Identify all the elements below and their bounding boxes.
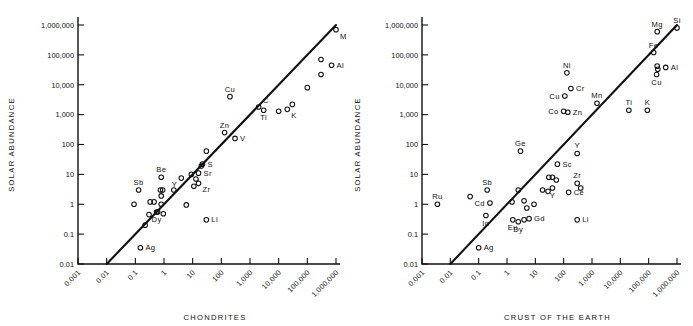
data-point-label: Mg xyxy=(652,20,663,29)
y-tick-label: 10 xyxy=(410,170,418,179)
data-point-marker xyxy=(485,188,490,193)
data-point-label: Co xyxy=(548,107,559,116)
x-tick-label: 100 xyxy=(210,268,226,284)
y-tick-label: 1,000,000 xyxy=(41,21,74,30)
x-tick-label: 10 xyxy=(185,268,197,280)
x-tick-label: 0.1 xyxy=(126,268,140,282)
data-point-marker xyxy=(468,194,473,199)
data-point-label: Ce xyxy=(574,188,585,197)
data-point-marker xyxy=(261,108,266,113)
data-point-marker xyxy=(575,181,580,186)
data-point-marker xyxy=(435,202,440,207)
data-point-marker xyxy=(204,218,209,223)
data-point-marker xyxy=(655,29,660,34)
data-point-marker xyxy=(655,67,660,72)
y-tick-label: 1,000 xyxy=(400,110,419,119)
x-tick-label: 10 xyxy=(527,268,539,280)
y-tick-label: 0.01 xyxy=(404,260,418,269)
data-point-marker xyxy=(159,175,164,180)
data-point-label: Ag xyxy=(484,243,494,252)
data-point-marker xyxy=(334,27,339,32)
y-tick-label: 10,000 xyxy=(51,81,74,90)
axis-frame xyxy=(422,17,681,264)
data-point-marker xyxy=(563,94,568,99)
chart-panel-crust-of-the-earth: 0.010.11101001,00010,000100,0001,000,000… xyxy=(346,0,693,326)
data-point-marker xyxy=(663,65,668,70)
data-point-label: Ge xyxy=(515,139,526,148)
y-tick-label: 10 xyxy=(66,170,74,179)
chart-panel-chondrites: 0.010.11101001,00010,000100,0001,000,000… xyxy=(0,0,346,326)
x-axis-title: CRUST OF THE EARTH xyxy=(504,313,611,322)
data-point-marker xyxy=(595,101,600,106)
x-tick-label: 1 xyxy=(159,268,168,277)
x-tick-label: 1,000,000 xyxy=(310,268,341,299)
x-tick-label: 1,000,000 xyxy=(651,268,682,299)
data-point-label: In xyxy=(482,219,489,228)
data-point-marker xyxy=(290,102,295,107)
data-point-label: Li xyxy=(211,215,218,224)
data-point-label: Li xyxy=(582,215,589,224)
data-point-marker xyxy=(518,149,523,154)
y-tick-label: 1,000,000 xyxy=(385,21,418,30)
data-point-marker xyxy=(522,218,527,223)
data-point-marker xyxy=(319,72,324,77)
data-point-label: S xyxy=(207,160,212,169)
data-point-label: Zn xyxy=(220,121,230,130)
data-point-label: V xyxy=(240,134,246,143)
figure-two-log-log-scatter-panels: 0.010.11101001,00010,000100,0001,000,000… xyxy=(0,0,693,326)
data-point-label: C xyxy=(263,96,269,105)
data-point-label: Sc xyxy=(562,160,572,169)
x-tick-label: 0.01 xyxy=(438,268,455,285)
data-point-label: Zr xyxy=(203,185,211,194)
data-point-label: K xyxy=(645,98,650,107)
data-point-label: Mn xyxy=(591,91,602,100)
data-point-marker xyxy=(476,245,481,250)
y-tick-label: 1 xyxy=(414,200,418,209)
data-point-marker xyxy=(305,85,310,90)
data-point-marker xyxy=(527,216,532,221)
data-point-label: Y xyxy=(574,141,579,150)
y-tick-label: 0.1 xyxy=(64,230,74,239)
data-point-marker xyxy=(132,202,137,207)
data-point-label: Cr xyxy=(576,84,585,93)
y-tick-label: 1,000 xyxy=(56,110,75,119)
data-point-label: Al xyxy=(671,63,679,72)
data-point-label: Cu xyxy=(549,92,560,101)
data-point-label: Sb xyxy=(482,178,492,187)
x-tick-label: 0.01 xyxy=(94,268,111,285)
data-point-marker xyxy=(184,203,189,208)
x-tick-label: 1,000 xyxy=(234,268,254,288)
y-axis-title: SOLAR ABUNDANCE xyxy=(353,97,362,192)
x-tick-label: 1 xyxy=(502,268,511,277)
data-point-marker xyxy=(204,149,209,154)
y-tick-label: 10,000 xyxy=(395,81,418,90)
data-point-label: Be xyxy=(156,165,166,174)
data-point-marker xyxy=(136,188,141,193)
data-point-marker xyxy=(654,72,659,77)
data-point-label: Gd xyxy=(534,214,545,223)
data-point-marker xyxy=(276,109,281,114)
data-point-marker xyxy=(522,199,527,204)
data-point-marker xyxy=(228,94,233,99)
data-point-marker xyxy=(196,181,201,186)
data-point-marker xyxy=(159,194,164,199)
data-point-marker xyxy=(627,108,632,113)
data-point-marker xyxy=(540,188,545,193)
y-tick-label: 100,000 xyxy=(391,51,418,60)
reference-fit-line xyxy=(107,25,336,264)
y-tick-label: 100 xyxy=(62,140,74,149)
data-point-marker xyxy=(555,162,560,167)
data-point-label: Ti xyxy=(625,98,632,107)
data-point-label: Sb xyxy=(134,178,144,187)
y-tick-label: 1 xyxy=(70,200,74,209)
y-tick-label: 100 xyxy=(406,140,418,149)
data-point-label: Cu xyxy=(651,78,662,87)
x-axis-title: CHONDRITES xyxy=(183,313,246,322)
data-point-marker xyxy=(222,130,227,135)
data-point-marker xyxy=(575,151,580,156)
data-point-marker xyxy=(233,136,238,141)
y-tick-label: 100,000 xyxy=(47,51,74,60)
data-point-marker xyxy=(285,107,290,112)
data-point-marker xyxy=(488,201,493,206)
x-tick-label: 10,000 xyxy=(602,268,625,291)
